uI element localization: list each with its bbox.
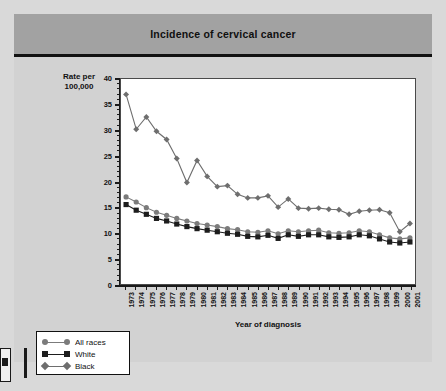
x-axis-tick <box>299 285 300 290</box>
x-axis-label: 1982 <box>220 292 227 308</box>
x-axis-tick <box>125 285 126 290</box>
x-axis-label: 1985 <box>251 292 258 308</box>
x-axis-tick <box>258 285 259 290</box>
x-axis-tick <box>288 285 289 290</box>
data-point <box>123 202 128 207</box>
data-point <box>326 234 331 239</box>
data-point <box>144 212 149 217</box>
legend-item: Black <box>42 360 124 372</box>
data-point <box>296 229 301 234</box>
data-point <box>215 229 220 234</box>
data-point <box>225 226 230 231</box>
x-axis-label: 1975 <box>149 292 156 308</box>
x-axis-label: 1976 <box>159 292 166 308</box>
data-point <box>397 240 402 245</box>
chart-title-bar: Incidence of cervical cancer <box>14 14 432 54</box>
x-axis-label: 1977 <box>169 292 176 308</box>
data-point <box>407 239 412 244</box>
x-axis-label: 1989 <box>291 292 298 308</box>
legend-marker-diamond-icon <box>41 362 49 370</box>
x-axis-tick <box>390 285 391 290</box>
x-axis-label: 1995 <box>353 292 360 308</box>
x-axis-label: 1986 <box>261 292 268 308</box>
x-axis-label: 2001 <box>414 292 421 308</box>
x-axis-label: 1991 <box>312 292 319 308</box>
data-point <box>336 207 342 213</box>
data-point <box>245 195 251 201</box>
data-point <box>164 218 169 223</box>
chart-title: Incidence of cervical cancer <box>150 28 296 40</box>
data-point <box>174 155 180 161</box>
x-axis-tick <box>360 285 361 290</box>
data-point <box>205 222 210 227</box>
x-axis-tick <box>370 285 371 290</box>
legend-label: Black <box>75 362 95 371</box>
data-point <box>316 232 321 237</box>
x-axis <box>120 285 416 291</box>
x-axis-label: 1974 <box>138 292 145 308</box>
data-point <box>235 227 240 232</box>
x-axis-tick <box>248 285 249 290</box>
page-corner-artifact <box>0 348 11 382</box>
x-axis-tick <box>319 285 320 290</box>
x-axis-tick <box>380 285 381 290</box>
x-axis-label: 1978 <box>179 292 186 308</box>
y-axis-label: 20 <box>104 177 112 186</box>
x-axis-label: 1980 <box>200 292 207 308</box>
y-axis-label: 10 <box>104 229 112 238</box>
x-axis-label: 1987 <box>271 292 278 308</box>
data-point <box>387 210 393 216</box>
x-axis-tick <box>186 285 187 290</box>
legend-swatch <box>42 348 70 360</box>
x-axis-label: 1993 <box>332 292 339 308</box>
y-axis-label: 5 <box>108 255 112 264</box>
x-axis-tick <box>339 285 340 290</box>
data-point <box>357 232 362 237</box>
x-axis-tick <box>237 285 238 290</box>
data-point <box>306 232 311 237</box>
data-point <box>276 236 281 241</box>
data-point <box>255 195 261 201</box>
legend-swatch <box>42 360 70 372</box>
data-point <box>387 239 392 244</box>
y-axis-label: 35 <box>104 99 112 108</box>
x-axis-tick <box>166 285 167 290</box>
data-point <box>255 234 260 239</box>
data-point <box>134 199 139 204</box>
x-axis-label: 1997 <box>373 292 380 308</box>
data-point <box>316 228 321 233</box>
x-axis-tick <box>309 285 310 290</box>
data-point <box>347 234 352 239</box>
data-point <box>123 91 129 97</box>
x-axis-tick <box>278 285 279 290</box>
data-point <box>225 231 230 236</box>
legend-item: All races <box>42 336 124 348</box>
series-layer <box>121 79 415 284</box>
y-axis-title-line1: Rate per <box>46 72 112 82</box>
data-point <box>184 180 190 186</box>
data-point <box>306 206 312 212</box>
data-point <box>346 211 352 217</box>
data-point <box>245 229 250 234</box>
x-axis-label: 1988 <box>281 292 288 308</box>
data-point <box>255 230 260 235</box>
x-axis-tick <box>176 285 177 290</box>
legend: All racesWhiteBlack <box>36 331 130 375</box>
data-point <box>265 233 270 238</box>
data-point <box>174 221 179 226</box>
data-point <box>286 232 291 237</box>
legend-label: All races <box>75 338 106 347</box>
x-axis-tick <box>217 285 218 290</box>
data-point <box>154 216 159 221</box>
x-axis-label: 1983 <box>230 292 237 308</box>
data-point <box>265 228 270 233</box>
data-point <box>377 207 383 213</box>
x-axis-label: 1998 <box>383 292 390 308</box>
data-point <box>276 231 281 236</box>
data-point <box>235 232 240 237</box>
x-axis-label: 2000 <box>404 292 411 308</box>
data-point <box>134 208 139 213</box>
x-axis-tick <box>146 285 147 290</box>
legend-marker-diamond-icon <box>63 362 71 370</box>
data-point <box>326 206 332 212</box>
